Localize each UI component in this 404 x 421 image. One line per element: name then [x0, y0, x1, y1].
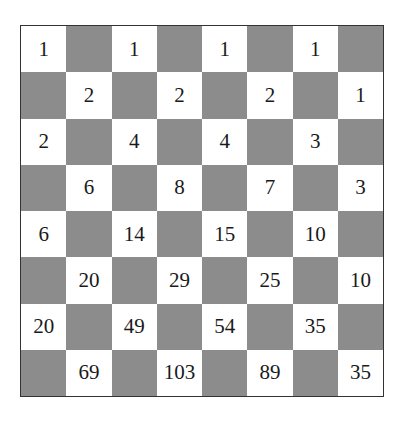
- board-cell: 7: [247, 165, 292, 211]
- board-cell: 54: [202, 304, 247, 350]
- board-cell: 2: [157, 72, 202, 118]
- board-cell: 89: [247, 350, 292, 396]
- board-cell: [21, 72, 66, 118]
- board-cell: [21, 257, 66, 303]
- board-cell: 6: [66, 165, 111, 211]
- board-cell: [202, 72, 247, 118]
- board-cell: [247, 119, 292, 165]
- board-cell: 8: [157, 165, 202, 211]
- board-cell: 1: [21, 26, 66, 72]
- board-cell: [157, 211, 202, 257]
- board-cell: [157, 26, 202, 72]
- board-cell: [338, 304, 383, 350]
- board-cell: 10: [293, 211, 338, 257]
- board-cell: [21, 165, 66, 211]
- board-cell: [202, 257, 247, 303]
- board-cell: 35: [293, 304, 338, 350]
- board-cell: [112, 257, 157, 303]
- board-cell: [66, 304, 111, 350]
- board-cell: [293, 257, 338, 303]
- board-cell: [66, 26, 111, 72]
- board-cell: 14: [112, 211, 157, 257]
- board-cell: [293, 165, 338, 211]
- board-cell: 29: [157, 257, 202, 303]
- board-cell: [247, 304, 292, 350]
- board-cell: 20: [66, 257, 111, 303]
- board-cell: 4: [112, 119, 157, 165]
- board-cell: [112, 350, 157, 396]
- board-cell: 69: [66, 350, 111, 396]
- board-cell: [338, 119, 383, 165]
- board-cell: 10: [338, 257, 383, 303]
- board-cell: [157, 304, 202, 350]
- board-cell: 35: [338, 350, 383, 396]
- board-cell: 4: [202, 119, 247, 165]
- board-cell: 49: [112, 304, 157, 350]
- board-cell: [157, 119, 202, 165]
- board-cell: [247, 211, 292, 257]
- board-cell: 3: [338, 165, 383, 211]
- board-cell: [112, 165, 157, 211]
- board-cell: [247, 26, 292, 72]
- board-cell: [202, 350, 247, 396]
- board-cell: 1: [293, 26, 338, 72]
- board-cell: 2: [247, 72, 292, 118]
- board-cell: 3: [293, 119, 338, 165]
- board-cell: 1: [112, 26, 157, 72]
- board-cell: [338, 211, 383, 257]
- board-cell: 1: [338, 72, 383, 118]
- board-cell: 1: [202, 26, 247, 72]
- board-cell: [66, 211, 111, 257]
- board-cell: 25: [247, 257, 292, 303]
- board-cell: 103: [157, 350, 202, 396]
- board-cell: [293, 350, 338, 396]
- board-cell: [202, 165, 247, 211]
- board-cell: [21, 350, 66, 396]
- board-cell: 2: [66, 72, 111, 118]
- board-cell: [112, 72, 157, 118]
- board-cell: 2: [21, 119, 66, 165]
- board-cell: [338, 26, 383, 72]
- board-cell: [66, 119, 111, 165]
- checkerboard: 1 1 1 1 2 2 2 1 2 4 4 3 6 8 7 3 6 14 15 …: [20, 25, 384, 397]
- board-cell: [293, 72, 338, 118]
- board-cell: 6: [21, 211, 66, 257]
- board-cell: 20: [21, 304, 66, 350]
- board-cell: 15: [202, 211, 247, 257]
